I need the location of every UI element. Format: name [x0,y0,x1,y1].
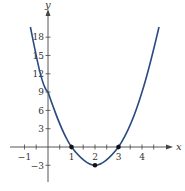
y-axis-arrow-icon [46,9,51,16]
y-tick-label: 18 [33,32,45,42]
x-axis-label: x [176,141,182,152]
x-tick-label: −1 [18,152,31,162]
chart-canvas: −1 1 2 3 4 18 15 12 9 6 3 −3 x y [0,0,185,191]
x-tick-label: 3 [116,152,122,162]
x-tick-label: 1 [69,152,75,162]
y-axis-label: y [44,0,51,10]
y-tick-label: 9 [38,87,44,97]
x-tick-label: 4 [139,152,145,162]
y-tick-label: 6 [38,106,44,116]
y-tick-label: 15 [33,51,45,61]
root-point-3 [116,145,121,150]
x-tick-label: 2 [92,152,98,162]
vertex-point [93,163,98,168]
y-tick-label: 3 [38,124,44,134]
y-tick-label: −3 [31,161,45,171]
y-tick-label: 12 [33,69,44,79]
root-point-1 [69,145,74,150]
x-axis-arrow-icon [166,145,173,150]
